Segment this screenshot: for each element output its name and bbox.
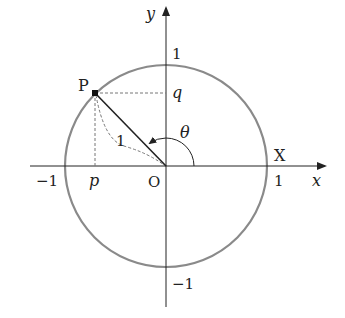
label-origin: O <box>148 173 160 191</box>
angle-label-theta: θ <box>180 123 190 142</box>
tick-y-neg: −1 <box>172 275 194 293</box>
y-axis-label: y <box>145 4 156 23</box>
unit-circle-diagram: y x 1 −1 1 −1 O P X p q 1 θ <box>0 0 345 318</box>
label-point-x: X <box>274 146 286 165</box>
label-point-p: P <box>78 76 89 95</box>
tick-x-pos: 1 <box>274 172 284 190</box>
diagram-canvas: y x 1 −1 1 −1 O P X p q 1 θ <box>0 0 345 318</box>
point-p-marker <box>92 90 98 96</box>
label-projection-p: p <box>89 171 99 190</box>
segment-op <box>95 93 166 166</box>
tick-x-neg: −1 <box>36 172 58 190</box>
segment-length-label: 1 <box>116 132 126 150</box>
tick-y-pos: 1 <box>172 45 182 63</box>
label-projection-q: q <box>172 83 182 102</box>
angle-arc <box>150 138 194 166</box>
x-axis-label: x <box>312 171 321 190</box>
